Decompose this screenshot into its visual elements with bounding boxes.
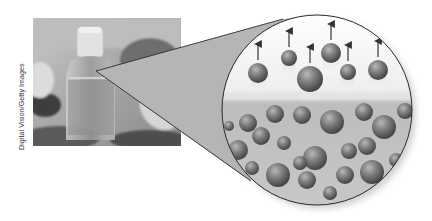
vapor-molecule: [281, 50, 297, 66]
liquid-molecule: [293, 106, 311, 124]
vapor-molecule: [321, 43, 341, 63]
liquid-molecule: [239, 114, 257, 132]
liquid-molecule: [252, 127, 270, 145]
liquid-molecule: [397, 103, 413, 119]
evaporation-diagram: [0, 0, 432, 221]
liquid-molecule: [355, 103, 373, 121]
liquid-molecule: [323, 186, 337, 200]
liquid-molecule: [303, 146, 327, 170]
vapor-molecule: [340, 64, 356, 80]
liquid-molecule: [298, 171, 316, 189]
liquid-molecule: [320, 110, 344, 134]
liquid-molecule: [224, 121, 234, 131]
vapor-molecule: [368, 60, 388, 80]
liquid-molecule: [341, 143, 357, 159]
liquid-molecule: [266, 105, 284, 123]
liquid-molecule: [293, 156, 307, 170]
liquid-molecule: [358, 137, 376, 155]
photo-credit: Digital Vision/Getty Images: [18, 63, 25, 150]
vapor-molecule: [297, 66, 323, 92]
liquid-molecule: [372, 115, 396, 139]
liquid-molecule: [266, 163, 290, 187]
vapor-molecule: [248, 63, 268, 83]
liquid-molecule: [245, 161, 259, 175]
evaporation-figure: Digital Vision/Getty Images: [0, 0, 432, 221]
liquid-molecule: [336, 166, 354, 184]
liquid-molecule: [277, 136, 291, 150]
